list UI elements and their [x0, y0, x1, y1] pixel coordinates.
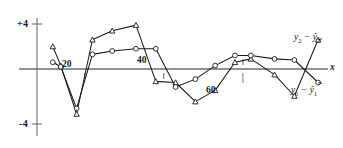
data-point-marker — [233, 53, 238, 58]
data-point-marker — [153, 46, 158, 51]
y-axis-tick-label-top: +4 — [17, 19, 28, 29]
data-point-marker — [74, 111, 79, 116]
data-point-marker — [213, 63, 218, 68]
data-point-marker — [272, 56, 277, 61]
data-point-marker — [193, 77, 198, 82]
series-label-y2-subscript: 2 — [298, 37, 301, 44]
plot-canvas — [0, 0, 343, 148]
x-axis-name: x — [330, 63, 335, 73]
data-point-marker — [50, 60, 55, 65]
data-point-marker — [90, 52, 95, 57]
x-axis-tick-label-60: 60 — [206, 86, 216, 96]
series-label-y1-hat-subscript: 1 — [314, 90, 317, 97]
x-axis-tick-label-20: 20 — [62, 60, 72, 70]
data-point-marker — [50, 44, 55, 49]
data-point-marker — [90, 37, 95, 42]
data-point-marker — [133, 22, 138, 27]
series-label-y2-residual: y2 − ŷ2 — [294, 33, 320, 44]
series-label-y2-minus: − — [304, 32, 310, 42]
data-point-marker — [134, 46, 139, 51]
data-point-marker — [74, 106, 79, 111]
series-label-y2-hat-subscript: 2 — [317, 37, 320, 44]
data-point-marker — [272, 72, 277, 77]
data-point-marker — [292, 58, 297, 63]
data-point-marker — [173, 85, 178, 90]
series-label-y1-residual: y1 − ŷ1 — [291, 86, 317, 97]
residual-plot-figure: +4 -4 20 40 60 x y2 − ŷ2 y1 − ŷ1 — [0, 0, 343, 148]
y-axis-tick-label-bottom: -4 — [19, 119, 28, 129]
data-point-marker — [110, 49, 115, 54]
series-label-y1-minus: − — [301, 85, 307, 95]
data-point-marker — [248, 53, 253, 58]
x-axis-tick-label-40: 40 — [137, 56, 147, 66]
series-label-y1-subscript: 1 — [295, 90, 298, 97]
